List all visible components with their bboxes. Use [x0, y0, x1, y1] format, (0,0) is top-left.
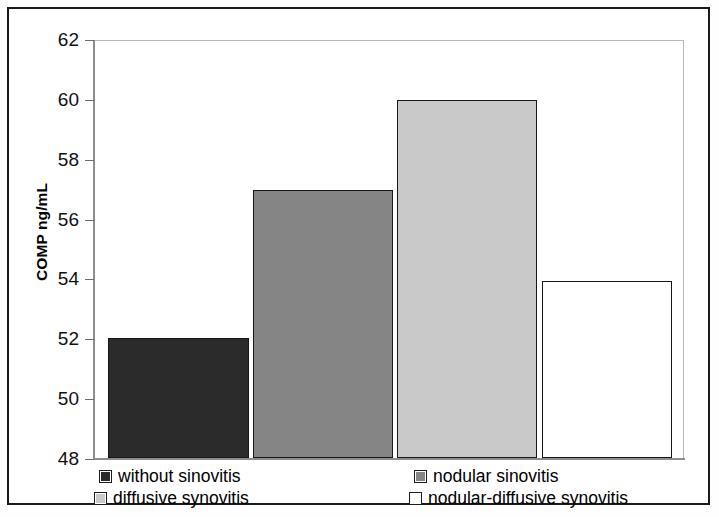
- x-axis-line: [93, 458, 685, 460]
- plot-area: [94, 40, 684, 459]
- bar-0: [108, 338, 249, 458]
- y-tick-mark: [85, 220, 94, 221]
- bar-1: [253, 190, 393, 458]
- legend-swatch-icon: [94, 492, 107, 505]
- figure-outer-border: 6260585654525048 COMP ng/mL without sino…: [7, 7, 710, 505]
- legend-label: diffusive synovitis: [113, 489, 249, 507]
- y-tick-label: 50: [33, 389, 79, 408]
- bar-3: [542, 281, 672, 458]
- y-tick-mark: [85, 40, 94, 41]
- y-tick-mark: [85, 160, 94, 161]
- y-axis-title-plain: ng/mL: [33, 183, 50, 234]
- y-tick-mark: [85, 339, 94, 340]
- legend-item: without sinovitis: [99, 467, 241, 485]
- y-tick-mark: [85, 399, 94, 400]
- legend-item: diffusive synovitis: [94, 489, 249, 507]
- chart-legend: without sinovitisnodular sinovitisdiffus…: [94, 467, 684, 513]
- legend-label: nodular-diffusive synovitis: [428, 489, 628, 507]
- bar-2: [397, 100, 537, 458]
- y-axis-title-bold: COMP: [33, 234, 50, 281]
- legend-swatch-icon: [409, 492, 422, 505]
- y-tick-label: 60: [33, 90, 79, 109]
- legend-item: nodular sinovitis: [414, 467, 558, 485]
- figure-root: 6260585654525048 COMP ng/mL without sino…: [0, 0, 719, 517]
- legend-label: nodular sinovitis: [433, 467, 558, 485]
- y-tick-mark: [85, 100, 94, 101]
- y-tick-mark: [85, 459, 94, 460]
- y-tick-label: 52: [33, 329, 79, 348]
- y-axis-line: [93, 40, 95, 460]
- legend-item: nodular-diffusive synovitis: [409, 489, 628, 507]
- y-tick-label: 62: [33, 30, 79, 49]
- legend-swatch-icon: [99, 470, 112, 483]
- y-axis-title: COMP ng/mL: [33, 137, 51, 327]
- y-tick-mark: [85, 279, 94, 280]
- legend-swatch-icon: [414, 470, 427, 483]
- y-tick-label: 48: [33, 449, 79, 468]
- legend-label: without sinovitis: [118, 467, 241, 485]
